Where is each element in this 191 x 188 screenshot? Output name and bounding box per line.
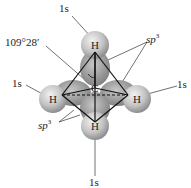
label-1s-top: 1s	[59, 2, 69, 14]
label-1s-left: 1s	[12, 77, 22, 89]
h-label-right: H	[133, 93, 141, 105]
label-1s-right: 1s	[177, 78, 187, 90]
label-sp3-lower: sp3	[38, 118, 51, 131]
c-label-center: C	[91, 82, 98, 94]
label-bond-angle: 109°28′	[5, 36, 39, 48]
methane-diagram: H H H H C	[0, 0, 191, 188]
h-label-top: H	[91, 39, 99, 51]
h-label-bottom: H	[91, 120, 99, 132]
label-1s-bottom: 1s	[89, 176, 99, 188]
h-label-left: H	[49, 93, 57, 105]
label-sp3-upper: sp3	[146, 32, 159, 45]
